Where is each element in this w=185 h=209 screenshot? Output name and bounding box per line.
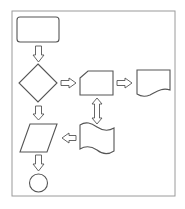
flowchart-canvas bbox=[0, 0, 185, 209]
node-connector-circle bbox=[30, 174, 48, 192]
node-start-rounded-rectangle bbox=[17, 17, 59, 42]
node-manual-input bbox=[80, 71, 113, 95]
flowchart-svg bbox=[0, 0, 185, 209]
